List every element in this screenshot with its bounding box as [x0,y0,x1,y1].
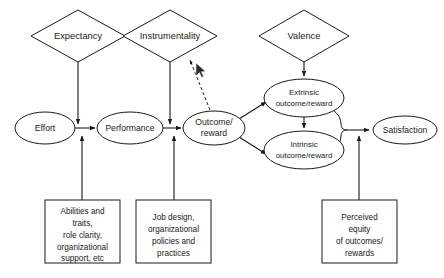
abilities-box-line-2: traits, [72,219,92,228]
node-satisfaction-label: Satisfaction [383,125,428,135]
connector-outcome-to-extrinsic [239,102,266,119]
node-outcome-reward-label-line1: Outcome/ [195,117,233,127]
job-design-box-line-3: policies and [152,237,196,246]
job-design-box-line-2: organizational [148,225,199,234]
node-extrinsic-outcome-reward[interactable]: Extrinsic outcome/reward [264,79,344,117]
node-performance-label: Performance [105,123,154,133]
mouse-cursor [196,63,206,77]
connector-outcome-to-intrinsic [239,137,266,154]
node-intrinsic-outcome-reward[interactable]: Intrinsic outcome/reward [264,131,344,169]
node-performance[interactable]: Performance [97,112,163,144]
node-outcome-reward[interactable]: Outcome/ reward [183,111,245,145]
node-intrinsic-outcome-reward-label-line2: outcome/reward [276,151,333,160]
abilities-box-line-4: organizational [57,243,108,252]
node-abilities-traits-box[interactable]: Abilities and traits, role clarity, orga… [45,200,120,263]
node-job-design-box[interactable]: Job design, organizational policies and … [136,200,211,263]
node-satisfaction[interactable]: Satisfaction [373,116,437,144]
node-valence[interactable]: Valence [259,10,349,62]
perceived-equity-box-line-3: of outcomes/ [336,237,384,246]
node-intrinsic-outcome-reward-label-line1: Intrinsic [290,140,317,149]
perceived-equity-box-line-1: Perceived [341,213,378,222]
perceived-equity-box-line-4: rewards [345,249,374,258]
node-valence-label: Valence [288,31,321,41]
job-design-box-line-4: practices [157,249,190,258]
node-outcome-reward-label-line2: reward [201,128,227,138]
node-expectancy-label: Expectancy [54,31,102,41]
node-extrinsic-outcome-reward-label-line2: outcome/reward [276,99,333,108]
node-perceived-equity-box[interactable]: Perceived equity of outcomes/ rewards [322,200,397,263]
node-extrinsic-outcome-reward-label-line1: Extrinsic [289,88,319,97]
node-instrumentality-label: Instrumentality [140,31,201,41]
perceived-equity-box-line-2: equity [349,225,372,234]
abilities-box-line-5: support, etc [61,254,104,263]
node-expectancy[interactable]: Expectancy [31,10,125,62]
job-design-box-line-1: Job design, [153,213,195,222]
abilities-box-line-1: Abilities and [60,207,105,216]
expectancy-theory-diagram: Expectancy Instrumentality Valence Effor… [0,0,444,278]
node-effort-label: Effort [35,123,56,133]
diagram-canvas: Expectancy Instrumentality Valence Effor… [0,0,444,278]
abilities-box-line-3: role clarity, [63,231,102,240]
node-instrumentality[interactable]: Instrumentality [123,10,217,62]
node-effort[interactable]: Effort [15,112,75,144]
